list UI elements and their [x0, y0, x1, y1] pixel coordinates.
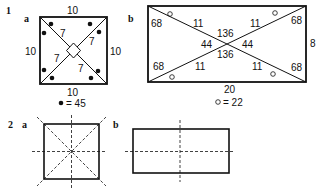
rectangle [133, 129, 229, 173]
filled-dot-icon [88, 22, 93, 27]
side-bottom: 10 [67, 87, 79, 98]
center-left: 44 [201, 39, 213, 50]
side-left: 10 [25, 46, 37, 57]
side-bottom: 20 [224, 84, 236, 95]
open-circle-icon [273, 11, 278, 16]
figure-1a: a 10 10 10 10 7 7 7 7 = 45 [24, 5, 122, 109]
center-bottom: 136 [217, 49, 234, 60]
legend-open-circle-icon [216, 100, 221, 105]
diag-top-right: 7 [89, 36, 95, 47]
symmetry-lines [32, 115, 106, 188]
inner-br: 11 [252, 61, 263, 72]
open-circle-icon [271, 72, 276, 77]
figure-2b: b [113, 119, 235, 182]
side-right: 10 [110, 46, 122, 57]
corner-br: 68 [291, 62, 303, 73]
inner-tr: 11 [250, 18, 261, 29]
center-top: 136 [217, 28, 234, 39]
filled-dot-icon [49, 22, 54, 27]
inner-tl: 11 [193, 18, 204, 29]
figure-1b: b 68 68 68 68 11 11 11 11 136 136 44 44 … [128, 6, 316, 108]
figure-1b-label: b [128, 13, 134, 24]
inner-bl: 11 [195, 61, 206, 72]
corner-tr: 68 [291, 15, 303, 26]
filled-dot-icon [42, 31, 47, 36]
corner-tl: 68 [151, 18, 163, 29]
figure-1a-label: a [24, 13, 29, 24]
filled-dot-icon [50, 76, 55, 81]
problem-2-number: 2 [8, 119, 13, 130]
side-right: 8 [310, 38, 316, 49]
symmetry-diagram: 1 a 10 10 10 10 7 7 7 7 = 45 b [0, 0, 318, 192]
figure-2a: a [22, 115, 106, 188]
open-circle-icon [168, 12, 173, 17]
filled-dot-icon [89, 76, 94, 81]
diag-bottom-left: 7 [54, 53, 60, 64]
filled-dot-icon [42, 68, 47, 73]
filled-dot-icon [96, 69, 101, 74]
center-right: 44 [242, 39, 254, 50]
legend-1a: = 45 [66, 98, 86, 109]
diag-bottom-right: 7 [78, 63, 84, 74]
legend-1b: = 22 [223, 97, 243, 108]
side-top: 10 [67, 5, 79, 16]
filled-dot-icon [97, 30, 102, 35]
diag-top-left: 7 [60, 28, 66, 39]
open-circle-icon [170, 75, 175, 80]
corner-bl: 68 [153, 61, 165, 72]
figure-2b-label: b [113, 119, 119, 130]
figure-2a-label: a [22, 119, 27, 130]
legend-filled-dot-icon [59, 101, 64, 106]
problem-1-number: 1 [6, 5, 11, 16]
